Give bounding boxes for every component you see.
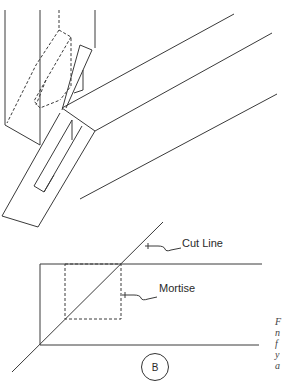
post-bottom-edge — [5, 125, 40, 145]
joinery-diagram — [0, 0, 282, 381]
caption-line: y — [275, 349, 281, 360]
slot-bottom — [34, 175, 54, 192]
elevation-view — [12, 222, 262, 372]
brace-end-bottom — [2, 216, 38, 227]
caption-line: a — [275, 360, 281, 371]
view-marker-b: B — [141, 353, 169, 381]
caption-line: F — [275, 316, 281, 327]
caption-line: n — [275, 327, 281, 338]
brace-top-edge — [62, 14, 234, 108]
mortise-leader — [122, 295, 157, 300]
mortise-label: Mortise — [159, 282, 195, 294]
brace-end-face-right — [38, 131, 95, 227]
hidden-tenon-line — [7, 30, 59, 123]
cut-line-leader — [145, 246, 181, 251]
brace-bottom-edge — [80, 94, 277, 199]
isometric-view — [2, 10, 277, 227]
cut-line-label: Cut Line — [182, 237, 223, 249]
hidden-edge — [36, 80, 46, 105]
caption-fragment: F n f y a — [275, 316, 281, 371]
brace-end-top — [62, 108, 95, 131]
caption-line: f — [275, 338, 281, 349]
brace-shoulder-bottom — [74, 90, 83, 93]
brace-mid-edge — [95, 33, 272, 131]
